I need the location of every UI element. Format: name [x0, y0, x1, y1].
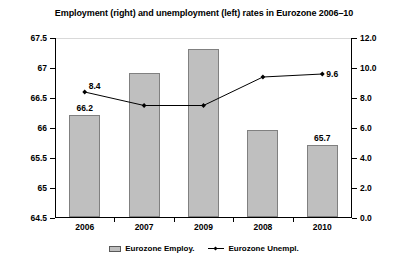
line-marker — [261, 75, 266, 80]
right-axis-tick-label: 4.0 — [360, 153, 372, 163]
plot-area: 64.56565.56666.56767.5 0.02.04.06.08.010… — [55, 38, 352, 218]
right-axis-tick-label: 10.0 — [360, 63, 377, 73]
right-axis-tick-label: 0.0 — [360, 213, 372, 223]
line-value-label: 8.4 — [89, 81, 101, 91]
left-axis-tick-label: 66 — [38, 123, 47, 133]
left-axis-tick-label: 66.5 — [30, 93, 47, 103]
x-axis-tick-mark — [114, 218, 115, 222]
right-axis-tick-mark — [352, 158, 357, 159]
left-axis-tick-mark — [50, 218, 55, 219]
left-axis-tick-label: 64.5 — [30, 213, 47, 223]
left-axis-tick-label: 65 — [38, 183, 47, 193]
x-axis-category-label: 2007 — [135, 222, 154, 232]
right-axis-tick-mark — [352, 218, 357, 219]
line-marker — [320, 72, 325, 77]
right-axis-tick-label: 6.0 — [360, 123, 372, 133]
line-marker — [142, 103, 147, 108]
right-axis-tick-mark — [352, 68, 357, 69]
right-axis-tick-mark — [352, 38, 357, 39]
x-axis-tick-mark — [174, 218, 175, 222]
x-axis-category-label: 2006 — [75, 222, 94, 232]
right-axis-tick-label: 12.0 — [360, 33, 377, 43]
legend-bar-swatch-icon — [109, 246, 121, 252]
chart-container: Employment (right) and unemployment (lef… — [0, 0, 408, 266]
x-axis-category-label: 2008 — [253, 222, 272, 232]
bar-value-label: 66.2 — [76, 103, 93, 113]
legend-line-marker-icon — [208, 246, 224, 252]
right-axis-tick-mark — [352, 128, 357, 129]
x-axis-tick-mark — [233, 218, 234, 222]
legend-item-label: Eurozone Unempl. — [228, 244, 298, 253]
right-axis-tick-mark — [352, 188, 357, 189]
right-axis-tick-mark — [352, 98, 357, 99]
left-axis-tick-label: 65.5 — [30, 153, 47, 163]
legend-item[interactable]: Eurozone Unempl. — [208, 244, 298, 253]
right-axis-tick-label: 2.0 — [360, 183, 372, 193]
chart-title: Employment (right) and unemployment (lef… — [0, 8, 408, 18]
x-axis-tick-mark — [293, 218, 294, 222]
left-axis-tick-label: 67 — [38, 63, 47, 73]
left-axis-tick-label: 67.5 — [30, 33, 47, 43]
line-series-eurozone-unempl — [55, 38, 352, 218]
x-axis-category-label: 2009 — [194, 222, 213, 232]
chart-legend: Eurozone Employ.Eurozone Unempl. — [0, 244, 408, 253]
line-value-label: 9.6 — [326, 69, 338, 79]
right-axis-tick-label: 8.0 — [360, 93, 372, 103]
line-marker — [201, 103, 206, 108]
bar-value-label: 65.7 — [314, 133, 331, 143]
x-axis-category-label: 2010 — [313, 222, 332, 232]
line-marker — [82, 90, 87, 95]
legend-item-label: Eurozone Employ. — [125, 244, 194, 253]
legend-item[interactable]: Eurozone Employ. — [109, 244, 194, 253]
